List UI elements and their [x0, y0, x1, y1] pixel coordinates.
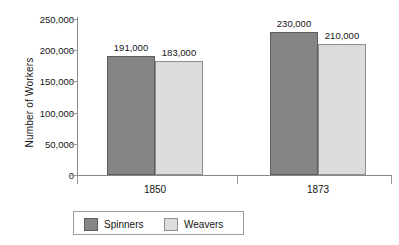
legend-item-spinners: Spinners	[84, 216, 143, 232]
legend-item-weavers: Weavers	[164, 216, 223, 232]
legend-swatch-spinners-icon	[84, 218, 98, 231]
bar-1873-spinners	[270, 32, 318, 175]
bar-1850-spinners	[107, 56, 155, 175]
bar-chart: Number of Workers 250,000 200,000 150,00…	[0, 0, 399, 245]
bar-value-1873-spinners: 230,000	[259, 18, 329, 29]
x-tick-mark-separator	[237, 176, 238, 184]
y-tick-label-50000: 50,000	[20, 139, 74, 150]
bar-value-1850-weavers: 183,000	[144, 47, 214, 58]
x-tick-mark-end	[391, 176, 392, 184]
x-category-label-1873: 1873	[283, 184, 353, 195]
bar-1873-weavers	[318, 44, 366, 175]
y-tick-label-100000: 100,000	[20, 108, 74, 119]
y-axis-line	[77, 17, 78, 176]
bar-1850-weavers	[155, 61, 203, 175]
x-axis-line	[77, 175, 392, 176]
y-tick-label-150000: 150,000	[20, 76, 74, 87]
bar-value-1873-weavers: 210,000	[307, 30, 377, 41]
legend-label-weavers: Weavers	[184, 219, 223, 230]
y-tick-label-200000: 200,000	[20, 45, 74, 56]
x-category-label-1850: 1850	[120, 184, 190, 195]
y-tick-label-0: 0	[20, 170, 74, 181]
legend: Spinners Weavers	[73, 211, 244, 235]
legend-label-spinners: Spinners	[104, 219, 143, 230]
y-tick-label-250000: 250,000	[20, 14, 74, 25]
y-axis-tick-labels: 250,000 200,000 150,000 100,000 50,000 0	[18, 0, 74, 245]
legend-swatch-weavers-icon	[164, 218, 178, 231]
x-tick-mark-start	[77, 176, 78, 184]
